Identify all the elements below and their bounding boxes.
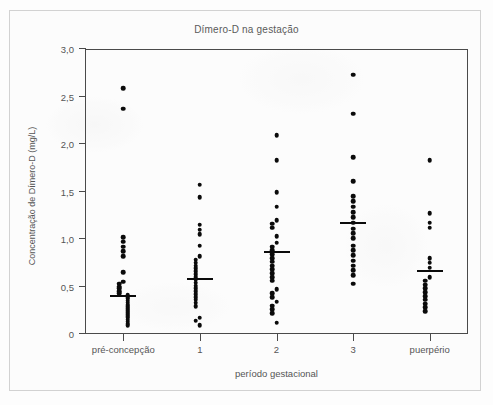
- x-axis-title: período gestacional: [85, 368, 468, 379]
- y-tick: [79, 191, 86, 192]
- chart-title: Dímero-D na gestação: [0, 24, 493, 35]
- x-tick: [353, 334, 354, 341]
- y-tick: [79, 333, 86, 334]
- x-tick: [200, 334, 201, 341]
- y-tick: [79, 96, 86, 97]
- x-tick: [277, 334, 278, 341]
- figure-root: Dímero-D na gestação 00,51,01,52,02,53,0…: [0, 0, 493, 405]
- y-tick-label: 0: [28, 329, 74, 340]
- plot-frame: [85, 49, 468, 334]
- y-tick: [79, 143, 86, 144]
- x-tick: [123, 334, 124, 341]
- x-tick: [430, 334, 431, 341]
- y-tick: [79, 48, 86, 49]
- x-tick-label-5: puerpério: [375, 344, 485, 355]
- y-tick: [79, 286, 86, 287]
- y-tick-label: 3,0: [28, 44, 74, 55]
- y-axis-title: Concentração de Dímero-D (mg/L): [27, 101, 37, 291]
- y-tick: [79, 238, 86, 239]
